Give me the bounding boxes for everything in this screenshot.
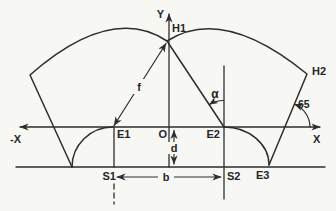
y-axis-label: Y — [157, 8, 165, 20]
neg-x-axis-label: -X — [10, 133, 22, 145]
origin-label: O — [158, 128, 167, 140]
e2-label: E2 — [207, 128, 220, 140]
focal-length-label: f — [137, 81, 141, 93]
diagram-svg: Y H1 H2 -X X O E1 E2 E3 S1 S2 f d b α 65 — [0, 0, 336, 211]
s1-label: S1 — [103, 170, 116, 182]
bottom-left-arc — [72, 127, 113, 167]
e3-label: E3 — [256, 169, 269, 181]
h1-label: H1 — [172, 22, 186, 34]
s2-label: S2 — [227, 170, 240, 182]
h2-label: H2 — [312, 65, 326, 77]
bottom-right-arc — [224, 127, 269, 165]
alpha-angle-label: α — [211, 87, 219, 101]
base-width-label: b — [163, 171, 170, 183]
edge-angle-label: 65 — [298, 98, 310, 110]
x-axis-label: X — [313, 133, 321, 145]
diagram-canvas: Y H1 H2 -X X O E1 E2 E3 S1 S2 f d b α 65 — [0, 0, 336, 211]
depth-label: d — [171, 142, 178, 154]
e1-label: E1 — [117, 128, 130, 140]
alpha-angle-arc — [209, 100, 223, 104]
h1-e2-edge-line — [167, 41, 224, 127]
